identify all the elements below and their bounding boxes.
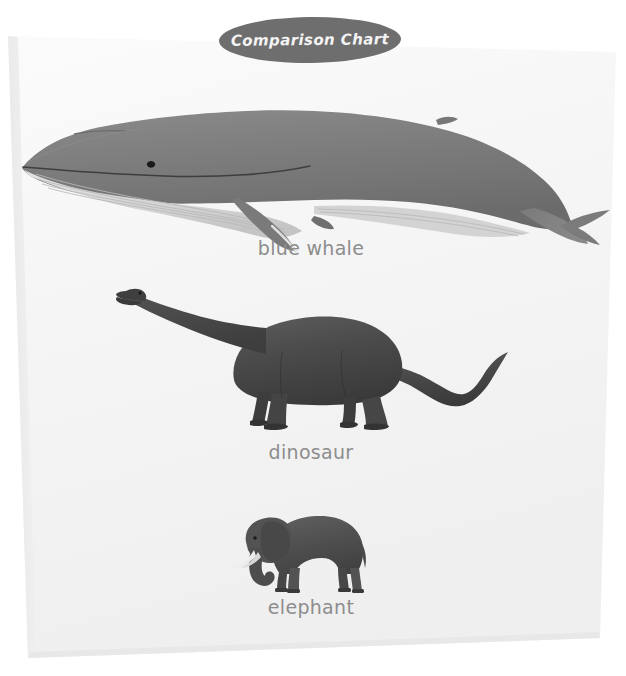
whale-body bbox=[22, 110, 574, 229]
page-title: Comparison Chart bbox=[231, 30, 389, 50]
whale-eye-arc bbox=[147, 161, 155, 168]
comparison-chart-page: Comparison Chart bbox=[0, 0, 626, 676]
dinosaur-eye bbox=[139, 292, 142, 295]
whale-dorsal-fin bbox=[436, 117, 458, 125]
whale-ventral-nub bbox=[311, 216, 334, 229]
dinosaur-neck bbox=[122, 292, 266, 354]
illustration-blue-whale bbox=[14, 88, 614, 248]
elephant-hind-leg-near bbox=[350, 568, 362, 591]
animal-label-dinosaur: dinosaur bbox=[161, 441, 461, 463]
illustration-dinosaur bbox=[106, 288, 526, 428]
animal-label-blue-whale: blue whale bbox=[161, 237, 461, 259]
animal-label-elephant: elephant bbox=[161, 596, 461, 618]
elephant-front-leg-near bbox=[288, 568, 300, 591]
illustration-elephant bbox=[228, 508, 376, 596]
dinosaur-hind-leg-far bbox=[342, 396, 356, 426]
dinosaur-hind-leg-near bbox=[362, 396, 388, 428]
elephant-eye bbox=[253, 536, 257, 540]
